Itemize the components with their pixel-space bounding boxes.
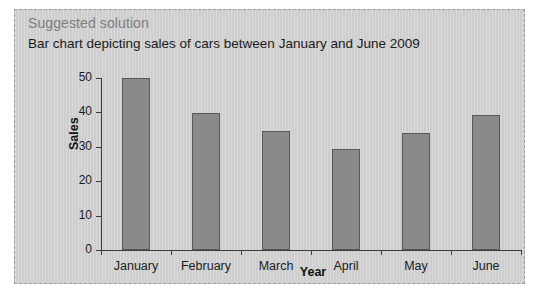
screenshot-root: Suggested solution Bar chart depicting s… (0, 0, 538, 301)
bar (122, 78, 150, 250)
x-axis-tick (311, 250, 312, 255)
y-axis-tick-label: 40 (79, 104, 92, 118)
y-axis-tick: 40 (96, 112, 101, 113)
x-axis-tick (451, 250, 452, 255)
y-axis-tick-label: 30 (79, 139, 92, 153)
bar (472, 115, 500, 250)
y-axis-tick: 50 (96, 78, 101, 79)
suggested-solution-panel: Suggested solution Bar chart depicting s… (14, 9, 525, 284)
bar (402, 133, 430, 250)
y-axis-tick-label: 10 (79, 208, 92, 222)
y-axis-tick-label: 0 (85, 242, 92, 256)
plot-area: 01020304050 JanuaryFebruaryMarchAprilMay… (101, 69, 525, 256)
x-axis-label: May (381, 259, 451, 273)
y-axis-tick: 10 (96, 216, 101, 217)
x-axis-tick (171, 250, 172, 255)
bar-chart: Sales Year 01020304050 JanuaryFebruaryMa… (15, 54, 524, 283)
y-axis-tick: 30 (96, 147, 101, 148)
y-axis-tick-label: 50 (79, 70, 92, 84)
x-axis-label: February (171, 259, 241, 273)
x-axis-tick (241, 250, 242, 255)
y-axis-line (101, 78, 102, 251)
x-axis-label: June (451, 259, 521, 273)
x-axis-label: March (241, 259, 311, 273)
x-axis-label: January (101, 259, 171, 273)
bar (262, 131, 290, 250)
y-axis-tick: 20 (96, 181, 101, 182)
panel-subheading: Bar chart depicting sales of cars betwee… (28, 36, 420, 51)
x-axis-tick (101, 250, 102, 255)
y-axis-tick-label: 20 (79, 173, 92, 187)
panel-heading: Suggested solution (28, 15, 149, 31)
bar (192, 113, 220, 250)
x-axis-label: April (311, 259, 381, 273)
bar (332, 149, 360, 250)
x-axis-tick (381, 250, 382, 255)
x-axis-tick (521, 250, 522, 255)
